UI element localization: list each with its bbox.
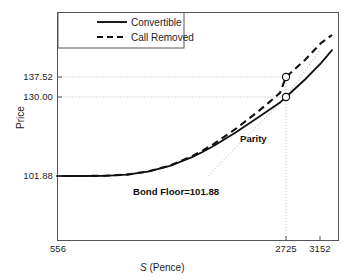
xtick-label-3152: 3152: [302, 243, 338, 254]
x-axis-symbol: S: [140, 262, 147, 273]
annotation-bond-floor: Bond Floor=101.88: [133, 186, 219, 197]
ytick-label-10188: 101.88: [8, 170, 53, 181]
x-axis-label: S (Pence): [140, 262, 184, 273]
marker-convertible-2725: [282, 93, 289, 100]
xtick-label-556: 556: [40, 243, 76, 254]
series-convertible: [57, 50, 332, 176]
ytick-label-13752: 137.52: [8, 71, 53, 82]
xtick-label-2725: 2725: [268, 243, 304, 254]
legend-label-convertible: Convertible: [131, 17, 182, 28]
y-axis-label: Price: [15, 88, 26, 148]
annotation-parity: Parity: [240, 133, 267, 144]
legend-label-call-removed: Call Removed: [131, 32, 194, 43]
chart-figure: 137.52 130.00 101.88 556 2725 3152 Price…: [0, 0, 353, 280]
series-call-removed: [57, 35, 332, 176]
x-axis-unit: (Pence): [149, 262, 184, 273]
marker-call-removed-2725: [282, 73, 289, 80]
